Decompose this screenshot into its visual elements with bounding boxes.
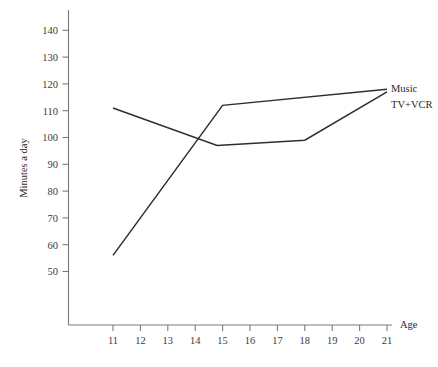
x-axis-ticks: 11 12 13 14 15 16 17 18 19 20 21	[108, 325, 392, 346]
y-tick-label: 140	[42, 25, 58, 36]
y-tick-label: 50	[48, 266, 59, 277]
x-tick-label: 12	[135, 335, 146, 346]
y-tick-label: 130	[42, 52, 58, 63]
series-line-tvvcr	[113, 92, 387, 146]
y-tick-label: 80	[48, 186, 59, 197]
x-tick-label: 15	[217, 335, 228, 346]
y-tick-label: 120	[42, 79, 58, 90]
y-axis-ticks: 140 130 120 110 100 90 80 70 60 50	[42, 25, 68, 277]
y-tick-label: 60	[48, 240, 59, 251]
x-tick-label: 20	[354, 335, 365, 346]
x-tick-label: 19	[327, 335, 338, 346]
y-tick-label: 100	[42, 132, 58, 143]
x-axis-title: Age	[400, 319, 418, 330]
y-axis-title: Minutes a day	[18, 138, 29, 198]
x-tick-label: 17	[272, 335, 283, 346]
x-tick-label: 16	[245, 335, 256, 346]
x-tick-label: 13	[163, 335, 174, 346]
y-tick-label: 90	[48, 159, 59, 170]
series-line-music	[113, 89, 387, 255]
series-label-tvvcr: TV+VCR	[391, 99, 433, 110]
y-tick-label: 70	[48, 213, 59, 224]
x-tick-label: 11	[108, 335, 118, 346]
chart-page: 140 130 120 110 100 90 80 70 60 50 Minut…	[0, 0, 438, 367]
x-tick-label: 14	[190, 335, 201, 346]
y-tick-label: 110	[43, 106, 58, 117]
series-label-music: Music	[391, 83, 418, 94]
line-chart: 140 130 120 110 100 90 80 70 60 50 Minut…	[0, 0, 438, 367]
x-tick-label: 18	[300, 335, 311, 346]
x-tick-label: 21	[382, 335, 393, 346]
